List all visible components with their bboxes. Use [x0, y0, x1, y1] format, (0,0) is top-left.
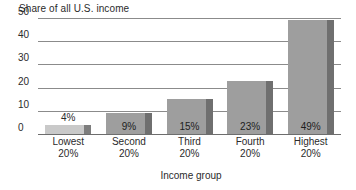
x-category-label-line1: Lowest: [38, 136, 99, 148]
bar-group: 9%: [106, 113, 152, 134]
bar: 4%: [45, 125, 91, 134]
bar-face: [106, 113, 145, 134]
y-tick-label-0: 0: [18, 122, 36, 133]
x-category-label-line1: Highest: [280, 136, 341, 148]
bar-group: 4%: [45, 125, 91, 134]
x-category-label-line2: 20%: [280, 148, 341, 160]
bar-face: [227, 81, 266, 134]
bar: 49%: [288, 20, 334, 134]
bar-group: 49%: [288, 20, 334, 134]
gridline-0: [38, 134, 341, 135]
bar-chart: Share of all U.S. income 01020304050 4%9…: [0, 0, 356, 190]
x-category-label: Third20%: [159, 136, 220, 160]
x-axis-title: Income group: [0, 170, 356, 182]
x-category-label-line1: Third: [159, 136, 220, 148]
bar: 23%: [227, 81, 273, 134]
bar-shadow-edge: [266, 81, 273, 134]
bar-value-label: 4%: [45, 112, 91, 123]
x-category-label-line2: 20%: [38, 148, 99, 160]
bar-group: 15%: [167, 99, 213, 134]
bar: 15%: [167, 99, 213, 134]
y-tick-label-50: 50: [18, 6, 36, 17]
bars-layer: 4%9%15%23%49%: [38, 18, 341, 134]
x-category-label-line2: 20%: [220, 148, 281, 160]
plot-area: 01020304050 4%9%15%23%49%: [38, 18, 341, 134]
bar: 9%: [106, 113, 152, 134]
y-tick-label-10: 10: [18, 99, 36, 110]
x-category-label: Fourth20%: [220, 136, 281, 160]
x-category-label-line1: Fourth: [220, 136, 281, 148]
bar-shadow-edge: [327, 20, 334, 134]
x-axis-category-labels: Lowest20%Second20%Third20%Fourth20%Highe…: [38, 136, 341, 166]
x-axis-title-text: Income group: [134, 170, 221, 182]
bar-shadow-edge: [145, 113, 152, 134]
y-tick-label-20: 20: [18, 76, 36, 87]
x-category-label-line1: Second: [99, 136, 160, 148]
bar-face: [288, 20, 327, 134]
x-category-label: Lowest20%: [38, 136, 99, 160]
x-category-label: Highest20%: [280, 136, 341, 160]
bar-face: [45, 125, 84, 134]
x-category-label-line2: 20%: [99, 148, 160, 160]
y-tick-label-40: 40: [18, 29, 36, 40]
x-category-label-line2: 20%: [159, 148, 220, 160]
bar-shadow-edge: [84, 125, 91, 134]
bar-group: 23%: [227, 81, 273, 134]
x-category-label: Second20%: [99, 136, 160, 160]
bar-face: [167, 99, 206, 134]
bar-shadow-edge: [206, 99, 213, 134]
y-tick-label-30: 30: [18, 52, 36, 63]
